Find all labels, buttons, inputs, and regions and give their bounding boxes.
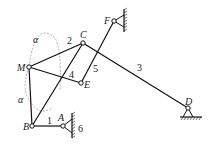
joint-A xyxy=(61,124,65,128)
label-A: A xyxy=(57,112,65,123)
ground-D xyxy=(180,108,202,120)
mechanism-diagram: M C E B A F D 1 2 3 4 5 6 α α xyxy=(0,0,211,147)
label-link-1: 1 xyxy=(47,115,52,126)
label-link-2: 2 xyxy=(67,35,72,46)
label-alpha-top: α xyxy=(33,34,39,45)
label-C: C xyxy=(80,29,87,40)
label-link-6: 6 xyxy=(78,123,83,134)
link-2-MC xyxy=(29,43,83,67)
label-link-3: 3 xyxy=(137,62,142,73)
label-link-5: 5 xyxy=(93,63,98,74)
joint-C xyxy=(81,41,85,45)
link-3-CD xyxy=(83,43,188,108)
joint-M xyxy=(27,65,31,69)
label-D: D xyxy=(184,96,193,107)
label-F: F xyxy=(103,15,111,26)
joint-E xyxy=(79,81,83,85)
label-link-4: 4 xyxy=(69,69,74,80)
joint-F xyxy=(112,19,116,23)
link-MB xyxy=(29,67,32,126)
label-B: B xyxy=(23,121,29,132)
label-M: M xyxy=(16,62,26,73)
label-alpha-bottom: α xyxy=(18,94,24,105)
label-E: E xyxy=(83,79,90,90)
joint-B xyxy=(30,124,34,128)
